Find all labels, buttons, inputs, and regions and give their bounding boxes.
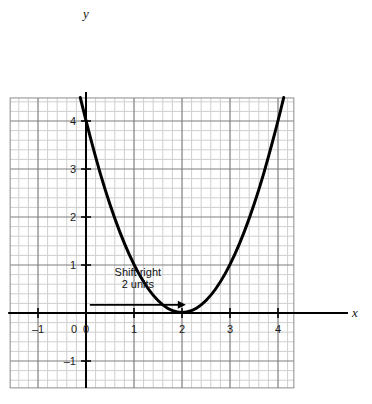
x-tick-label: 0 xyxy=(83,323,89,335)
x-tick-label: 2 xyxy=(179,323,185,335)
x-axis-label: x xyxy=(351,305,358,320)
annotation-line-2: 2 units xyxy=(122,278,155,290)
x-tick-label: 1 xyxy=(131,323,137,335)
x-tick-label: –1 xyxy=(32,323,44,335)
y-axis-label: y xyxy=(81,6,89,21)
figure-background xyxy=(0,0,372,404)
coordinate-plane-svg: –101234 –11234 0 Shift right2 units x y xyxy=(0,0,372,404)
graph-figure: –101234 –11234 0 Shift right2 units x y xyxy=(0,0,372,404)
y-tick-label: 2 xyxy=(70,211,76,223)
origin-tick-label: 0 xyxy=(71,323,77,335)
x-tick-label: 4 xyxy=(275,323,281,335)
x-tick-label: 3 xyxy=(227,323,233,335)
annotation-line-1: Shift right xyxy=(115,266,161,278)
y-tick-label: 1 xyxy=(70,259,76,271)
y-tick-label: 3 xyxy=(70,163,76,175)
y-tick-label: 4 xyxy=(70,115,76,127)
y-tick-label: –1 xyxy=(64,355,76,367)
